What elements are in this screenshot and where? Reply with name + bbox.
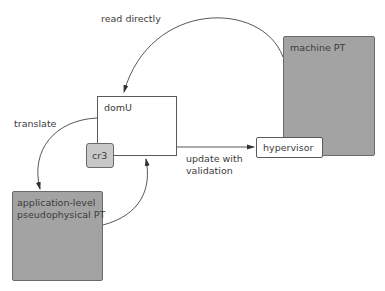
hypervisor-box: hypervisor — [256, 137, 323, 158]
hypervisor-label: hypervisor — [263, 142, 313, 154]
machine-pt-label: machine PT — [290, 42, 345, 54]
app-pt-box: application-level pseudophysical PT — [12, 191, 103, 281]
app-pt-label: application-level pseudophysical PT — [17, 197, 105, 221]
cr3-label: cr3 — [92, 150, 107, 162]
label-read-directly: read directly — [101, 13, 161, 25]
edge-app-to-domu — [103, 159, 147, 225]
cr3-box: cr3 — [86, 143, 114, 168]
label-translate: translate — [14, 118, 56, 130]
label-update-with-validation: update with validation — [186, 153, 243, 177]
domu-label: domU — [104, 102, 132, 114]
edge-read-directly — [124, 18, 283, 92]
